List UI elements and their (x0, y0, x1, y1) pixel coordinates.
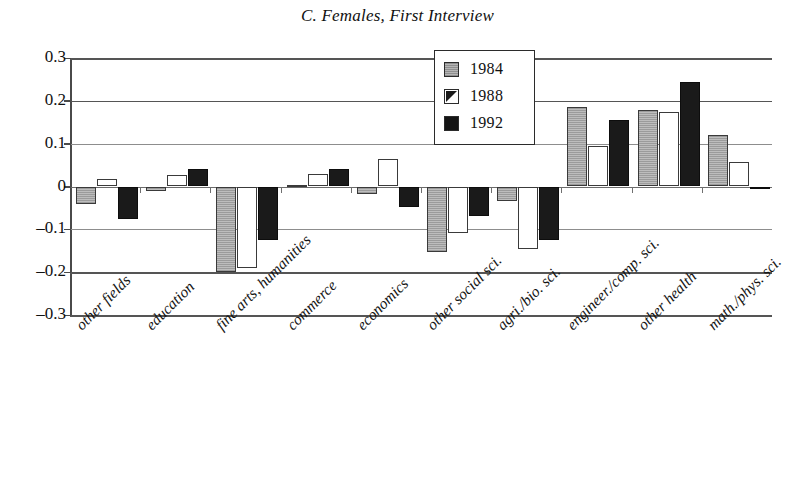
bar-1988-commerce (308, 174, 328, 186)
x-axis-tick (702, 187, 703, 193)
bar-1984-engineer-comp-sci (567, 107, 587, 186)
y-axis-tick-label: 0.1 (6, 133, 66, 153)
bar-1992-education (188, 169, 208, 187)
gridline (70, 101, 772, 103)
x-axis-tick (210, 187, 211, 193)
bar-1984-other-social-sci (427, 187, 447, 253)
bar-1984-other-fields (76, 187, 96, 205)
x-axis-tick (561, 187, 562, 193)
x-axis-tick (491, 187, 492, 193)
legend-item-1984: 1984 (444, 58, 503, 80)
bar-1988-other-fields (97, 179, 117, 187)
bar-1984-math-phys-sci (708, 135, 728, 186)
bar-1988-engineer-comp-sci (588, 146, 608, 187)
y-axis-tick-label: –0.1 (6, 218, 66, 238)
chart-title: C. Females, First Interview (0, 6, 795, 26)
legend-label: 1984 (470, 60, 503, 78)
bar-1992-other-social-sci (469, 187, 489, 217)
bar-1992-engineer-comp-sci (609, 120, 629, 186)
gray-hatch-swatch (444, 62, 459, 77)
bar-1992-other-health (680, 82, 700, 186)
white-diagonal-swatch (444, 89, 459, 104)
gridline (70, 229, 772, 230)
bar-1992-other-fields (118, 187, 138, 219)
bar-1984-commerce (287, 185, 307, 187)
gridline (70, 58, 772, 60)
bar-1992-fine-arts-humanities (258, 187, 278, 241)
bar-1984-fine-arts-humanities (216, 187, 236, 273)
y-axis-tick-label: 0.2 (6, 90, 66, 110)
bar-1988-fine-arts-humanities (237, 187, 257, 268)
bar-1992-math-phys-sci (750, 187, 770, 189)
figure-panel-c: C. Females, First Interview 0.30.20.10–0… (0, 0, 795, 496)
bar-1988-economics (378, 159, 398, 187)
bar-1992-economics (399, 187, 419, 208)
bar-1988-math-phys-sci (729, 162, 749, 187)
legend-label: 1988 (470, 87, 503, 105)
bar-1984-agri-bio-sci (497, 187, 517, 201)
legend-item-1992: 1992 (444, 112, 503, 134)
x-axis-tick (140, 187, 141, 193)
gridline (70, 272, 772, 274)
bar-1992-agri-bio-sci (539, 187, 559, 241)
y-axis-tick-label: –0.2 (6, 261, 66, 281)
x-axis-labels: other fieldseducationfine arts, humaniti… (0, 315, 795, 496)
x-axis-tick (632, 187, 633, 193)
bar-1988-other-health (659, 112, 679, 186)
y-axis-tick-label: 0 (6, 176, 66, 196)
bar-1984-economics (357, 187, 377, 195)
legend-item-1988: 1988 (444, 85, 503, 107)
bar-1988-education (167, 175, 187, 187)
x-axis-tick (281, 187, 282, 193)
chart-legend: 198419881992 (434, 50, 535, 145)
bar-1988-agri-bio-sci (518, 187, 538, 249)
bar-1984-education (146, 187, 166, 191)
plot-area: 0.30.20.10–0.1–0.2–0.3 (70, 58, 772, 315)
bar-1988-other-social-sci (448, 187, 468, 233)
x-axis-tick (421, 187, 422, 193)
bar-1992-commerce (329, 169, 349, 186)
y-axis-tick-label: 0.3 (6, 47, 66, 67)
x-axis-tick (351, 187, 352, 193)
black-swatch (444, 116, 459, 131)
legend-label: 1992 (470, 114, 503, 132)
bar-1984-other-health (638, 110, 658, 186)
